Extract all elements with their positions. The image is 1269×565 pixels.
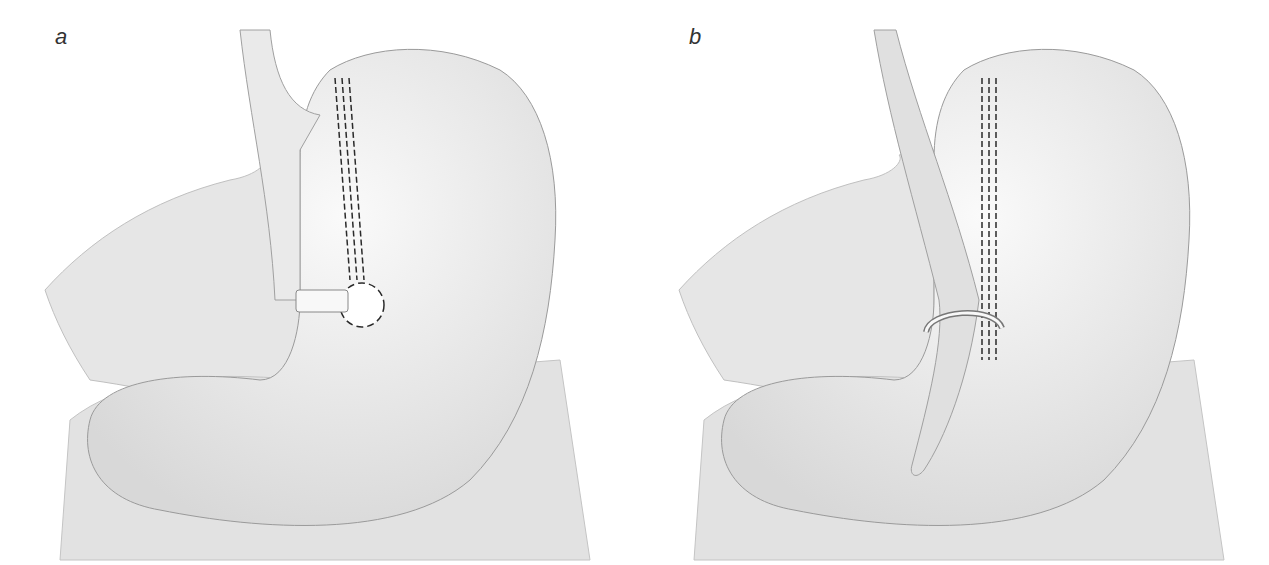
panel-a: a bbox=[0, 0, 634, 565]
illustration-a bbox=[0, 0, 634, 565]
illustration-b bbox=[634, 0, 1268, 565]
panel-b: b bbox=[634, 0, 1268, 565]
outlet-band bbox=[296, 290, 348, 312]
